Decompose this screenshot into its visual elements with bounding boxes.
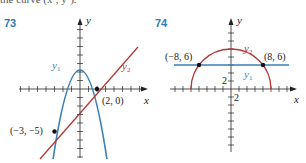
y1-label: y1: [51, 59, 61, 73]
x-axis-label: x: [293, 93, 299, 105]
point-neg3-neg5: [52, 129, 56, 133]
point-label-neg3-neg5: (−3, −5): [10, 125, 43, 137]
point-label-2-0: (2, 0): [102, 95, 124, 107]
graphs: y x y1 y2 (2, 0) (−3, −5) y x y2 y1 (−8,…: [0, 0, 306, 163]
graph-73: y x y1 y2 (2, 0) (−3, −5): [10, 14, 149, 159]
x-axis-label: x: [143, 94, 149, 106]
y2-label: y2: [243, 42, 253, 56]
y-axis-label: y: [236, 14, 242, 26]
y-arrow-icon: [78, 18, 83, 25]
x-arrow-icon: [141, 87, 148, 92]
point-label-8-6: (8, 6): [264, 51, 286, 63]
point-label-neg8-6: (−8, 6): [165, 51, 192, 63]
y-axis-label: y: [85, 14, 91, 26]
y-tick-label-2: 2: [222, 75, 227, 86]
x-tick-label-2: 2: [234, 92, 239, 103]
y-arrow-icon: [229, 18, 234, 25]
y2-label: y2: [121, 60, 131, 74]
point-2-0: [95, 87, 99, 91]
point-neg8-6: [197, 63, 201, 67]
point-8-6: [261, 63, 265, 67]
graph-74: y x y2 y1 (−8, 6) (8, 6) 2 2: [165, 14, 299, 152]
y1-label: y1: [243, 68, 253, 82]
x-arrow-icon: [290, 87, 297, 92]
